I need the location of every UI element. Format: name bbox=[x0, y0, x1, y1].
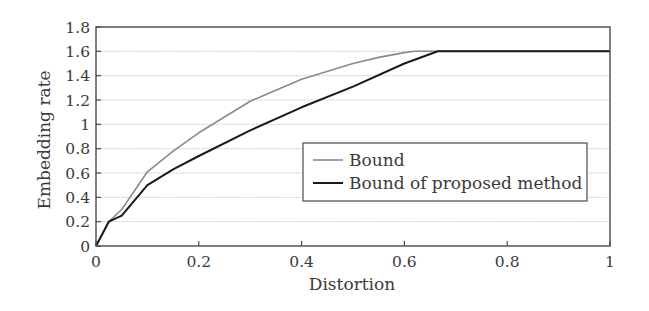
y-axis-tick-labels: 00.20.40.60.811.21.41.61.8 bbox=[65, 19, 90, 256]
y-tick-label: 1.6 bbox=[65, 43, 90, 61]
legend-label-proposed: Bound of proposed method bbox=[349, 173, 582, 193]
plot-area-frame bbox=[96, 27, 610, 246]
y-tick-label: 1.8 bbox=[65, 19, 90, 37]
y-axis-title: Embedding rate bbox=[34, 70, 54, 209]
x-tick-label: 0.2 bbox=[186, 253, 211, 271]
x-axis-title: Distortion bbox=[309, 274, 395, 294]
x-tick-label: 0.4 bbox=[289, 253, 314, 271]
y-tick-label: 0.4 bbox=[65, 189, 90, 207]
chart: 00.20.40.60.81 00.20.40.60.811.21.41.61.… bbox=[0, 0, 649, 311]
axis-ticks bbox=[96, 27, 610, 246]
legend-label-bound: Bound bbox=[349, 150, 405, 170]
y-tick-label: 1 bbox=[80, 116, 90, 134]
x-axis-tick-labels: 00.20.40.60.81 bbox=[91, 253, 615, 271]
y-tick-label: 1.4 bbox=[65, 67, 90, 85]
x-tick-label: 1 bbox=[605, 253, 615, 271]
y-tick-label: 0 bbox=[80, 238, 90, 256]
x-tick-label: 0.6 bbox=[392, 253, 417, 271]
y-tick-label: 0.2 bbox=[65, 213, 90, 231]
y-tick-label: 0.8 bbox=[65, 140, 90, 158]
legend: Bound Bound of proposed method bbox=[303, 143, 587, 201]
x-tick-label: 0 bbox=[91, 253, 101, 271]
y-tick-label: 1.2 bbox=[65, 92, 90, 110]
y-tick-label: 0.6 bbox=[65, 165, 90, 183]
x-tick-label: 0.8 bbox=[495, 253, 520, 271]
